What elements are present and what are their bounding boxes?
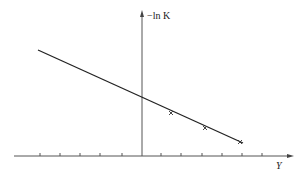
data-points bbox=[169, 111, 242, 144]
y-axis bbox=[140, 10, 144, 156]
fit-line bbox=[38, 50, 243, 143]
x-axis bbox=[14, 153, 294, 158]
y-axis-label: −ln K bbox=[147, 10, 170, 21]
plot-canvas bbox=[0, 0, 305, 184]
x-axis-label: Y bbox=[276, 160, 282, 171]
diagram: −ln K Y bbox=[0, 0, 305, 184]
